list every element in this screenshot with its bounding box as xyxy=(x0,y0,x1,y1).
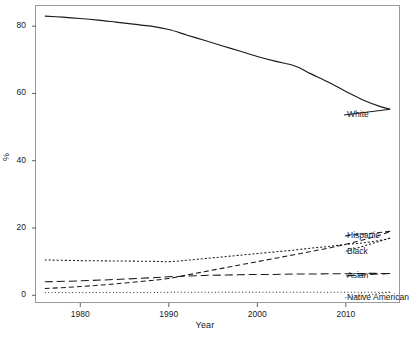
y-tick-label: 20 xyxy=(4,222,26,232)
series-label-native-american: Native American xyxy=(347,292,409,302)
y-tick-label: 0 xyxy=(4,289,26,299)
x-tick-label: 1990 xyxy=(149,309,189,319)
series-label-white: White xyxy=(347,109,369,119)
y-tick-label: 80 xyxy=(4,20,26,30)
y-tick-label: 60 xyxy=(4,87,26,97)
y-tick-label: 40 xyxy=(4,155,26,165)
series-label-hispanic: Hispanic xyxy=(347,230,380,240)
x-axis-label: Year xyxy=(0,320,410,330)
series-label-black: Black xyxy=(347,246,368,256)
x-tick-label: 2000 xyxy=(237,309,277,319)
x-tick-label: 2010 xyxy=(326,309,366,319)
chart-container: % Year 020406080 1980199020002010 WhiteH… xyxy=(0,0,410,340)
series-label-asian: Asian xyxy=(347,270,368,280)
line-chart-plot xyxy=(0,0,410,340)
plot-panel xyxy=(36,6,400,303)
x-tick-label: 1980 xyxy=(60,309,100,319)
